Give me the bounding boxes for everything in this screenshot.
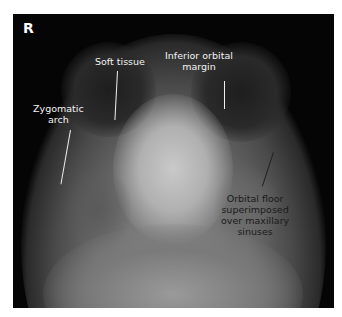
label-soft-tissue: Soft tissue — [95, 56, 145, 67]
label-inferior-orbital-margin: Inferior orbital margin — [165, 50, 233, 72]
radiograph-image: R Soft tissue Inferior orbital margin Zy… — [13, 14, 334, 308]
label-orbital-floor: Orbital floor superimposed over maxillar… — [221, 193, 289, 237]
side-marker: R — [23, 20, 34, 36]
leader-inferior-orbital-margin — [224, 81, 225, 109]
label-zygomatic-arch: Zygomatic arch — [33, 103, 84, 125]
